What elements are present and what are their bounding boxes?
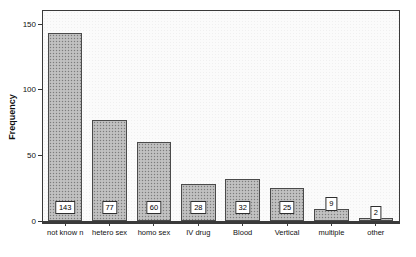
- bar[interactable]: 25: [270, 188, 305, 221]
- bar-value-label: 9: [326, 197, 337, 211]
- x-tick-mark: [287, 222, 288, 226]
- x-tick-label: hetero sex: [92, 228, 127, 237]
- bar-slot: 60: [132, 11, 176, 221]
- x-tick-label: multiple: [319, 228, 345, 237]
- x-tick-mark: [153, 222, 154, 226]
- x-tick-vertical: Vertical: [265, 222, 309, 237]
- bar-value-label: 77: [102, 201, 117, 215]
- x-tick-blood: Blood: [221, 222, 265, 237]
- x-tick-mark: [375, 222, 376, 226]
- bar[interactable]: 2: [359, 218, 394, 221]
- x-tick-iv-drug: IV drug: [176, 222, 220, 237]
- bar-value-label: 143: [55, 201, 75, 215]
- bar-value-label: 60: [146, 201, 161, 215]
- bar-slot: 77: [87, 11, 131, 221]
- x-tick-multiple: multiple: [309, 222, 353, 237]
- x-tick-label: homo sex: [138, 228, 171, 237]
- bar-value-label: 32: [235, 201, 250, 215]
- x-tick-mark: [331, 222, 332, 226]
- x-axis-ticks: not know nhetero sexhomo sexIV drugBlood…: [43, 222, 398, 252]
- x-tick-other: other: [354, 222, 398, 237]
- y-tick-50: 50: [0, 150, 42, 160]
- y-tick-150: 150: [0, 19, 42, 29]
- x-tick-not-know-n: not know n: [43, 222, 87, 237]
- bar[interactable]: 77: [92, 120, 127, 221]
- y-tick-0: 0: [0, 216, 42, 226]
- bar[interactable]: 28: [181, 184, 216, 221]
- bar[interactable]: 9: [314, 209, 349, 221]
- bar[interactable]: 60: [137, 142, 172, 221]
- bar-slot: 25: [265, 11, 309, 221]
- x-tick-label: other: [367, 228, 384, 237]
- bar-value-label: 2: [370, 206, 381, 220]
- bar-slot: 143: [43, 11, 87, 221]
- y-axis-ticks: 050100150: [0, 0, 42, 257]
- bars-layer: 143776028322592: [43, 11, 398, 221]
- bar-value-label: 28: [191, 201, 206, 215]
- y-tick-label: 150: [23, 20, 38, 29]
- bar-slot: 9: [309, 11, 353, 221]
- y-tick-label: 100: [23, 85, 38, 94]
- x-tick-mark: [242, 222, 243, 226]
- x-tick-mark: [65, 222, 66, 226]
- bar-chart: Frequency 050100150 143776028322592 not …: [0, 0, 416, 257]
- x-tick-hetero-sex: hetero sex: [87, 222, 131, 237]
- bar-value-label: 25: [279, 201, 294, 215]
- x-tick-mark: [109, 222, 110, 226]
- x-tick-mark: [198, 222, 199, 226]
- x-tick-label: Blood: [233, 228, 252, 237]
- bar-slot: 2: [354, 11, 398, 221]
- bar[interactable]: 32: [225, 179, 260, 221]
- x-tick-label: not know n: [47, 228, 83, 237]
- x-tick-label: IV drug: [186, 228, 210, 237]
- bar-slot: 28: [176, 11, 220, 221]
- y-tick-label: 50: [27, 151, 38, 160]
- x-tick-homo-sex: homo sex: [132, 222, 176, 237]
- y-tick-100: 100: [0, 85, 42, 95]
- x-tick-label: Vertical: [275, 228, 300, 237]
- bar-slot: 32: [221, 11, 265, 221]
- bar[interactable]: 143: [48, 33, 83, 221]
